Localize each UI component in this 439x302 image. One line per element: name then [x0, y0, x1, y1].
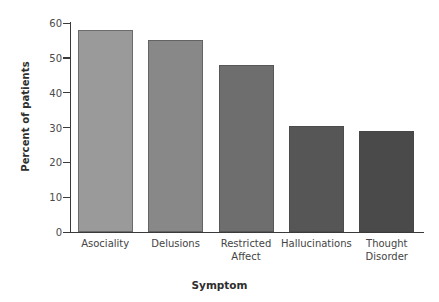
- y-axis-tick-label: 0: [16, 227, 62, 238]
- category-label-line: Thought: [339, 238, 435, 251]
- y-axis-tick: [63, 23, 70, 24]
- y-axis-tick-label: 60: [16, 18, 62, 29]
- y-axis-title-label: Percent of patients: [20, 61, 31, 171]
- y-axis-tick: [63, 127, 70, 128]
- y-axis-tick: [63, 197, 70, 198]
- y-axis-tick: [63, 57, 70, 58]
- bar: [78, 30, 133, 232]
- plot-area: [70, 23, 422, 232]
- bar: [148, 40, 203, 232]
- bar: [219, 65, 274, 232]
- x-axis-title: Symptom: [0, 279, 439, 291]
- x-axis-line: [63, 232, 424, 233]
- bar-chart: Percent of patients 0102030405060 Asocia…: [0, 0, 439, 302]
- category-label-line: Disorder: [339, 251, 435, 264]
- y-axis-tick-label: 40: [16, 87, 62, 98]
- category-label-line: Affect: [198, 251, 294, 264]
- y-axis-tick: [63, 92, 70, 93]
- y-axis-tick: [63, 162, 70, 163]
- bar: [359, 131, 414, 232]
- y-axis-tick-label: 10: [16, 192, 62, 203]
- y-axis-tick-label: 50: [16, 52, 62, 63]
- x-axis-category-label: ThoughtDisorder: [339, 238, 435, 263]
- y-axis-tick-label: 30: [16, 122, 62, 133]
- y-axis-tick-label: 20: [16, 157, 62, 168]
- bar: [289, 126, 344, 232]
